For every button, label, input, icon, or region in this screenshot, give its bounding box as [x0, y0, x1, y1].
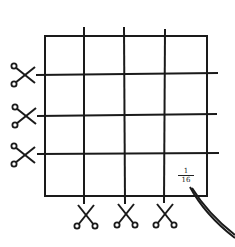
fraction-denominator: 16 [178, 176, 194, 184]
grid-diagram [0, 0, 235, 247]
scissors-icon [11, 63, 35, 86]
fraction-label: 1 16 [178, 167, 194, 184]
horizontal-cut-line [37, 114, 217, 116]
scissors-icon [11, 143, 35, 166]
scissors-icon [12, 104, 36, 127]
scissors-icon [114, 204, 137, 228]
horizontal-cut-line [36, 73, 218, 75]
fraction-numerator: 1 [178, 167, 194, 176]
vertical-cut-line [164, 29, 165, 203]
horizontal-cut-line [37, 153, 219, 154]
scissors-icon [74, 205, 97, 229]
scissors-icon [153, 204, 176, 228]
